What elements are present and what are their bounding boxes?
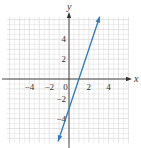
- x-axis-label: x: [133, 73, 139, 84]
- grid-lines: [7, 17, 129, 143]
- y-axis-arrow-icon: [67, 12, 71, 18]
- y-axis-label: y: [66, 1, 72, 12]
- x-tick-label: −2: [44, 82, 54, 92]
- y-tick-label: 4: [62, 34, 67, 44]
- x-tick-label: 0: [63, 82, 68, 92]
- y-tick-label: −2: [56, 94, 66, 104]
- x-axis-arrow-icon: [126, 77, 132, 81]
- x-tick-label: 4: [106, 82, 111, 92]
- x-tick-label: 2: [87, 82, 92, 92]
- axes: [2, 12, 132, 148]
- y-tick-label: 2: [62, 54, 67, 64]
- x-tick-label: −4: [25, 82, 35, 92]
- coordinate-plane: −4−2024−4−224 x y: [0, 0, 141, 148]
